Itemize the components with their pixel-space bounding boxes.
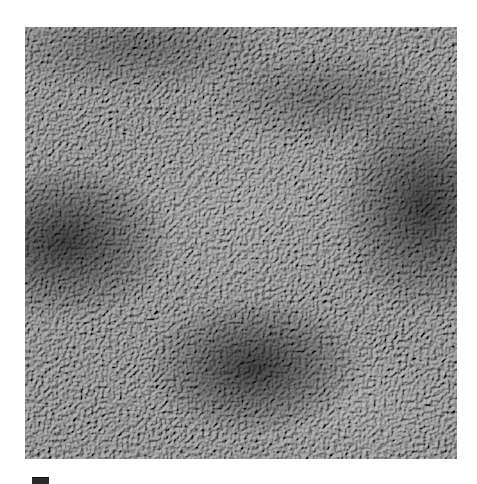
canvas [0,0,477,484]
swatch-icon [32,477,49,484]
texture-svg [25,27,457,459]
texture-image [25,27,457,459]
